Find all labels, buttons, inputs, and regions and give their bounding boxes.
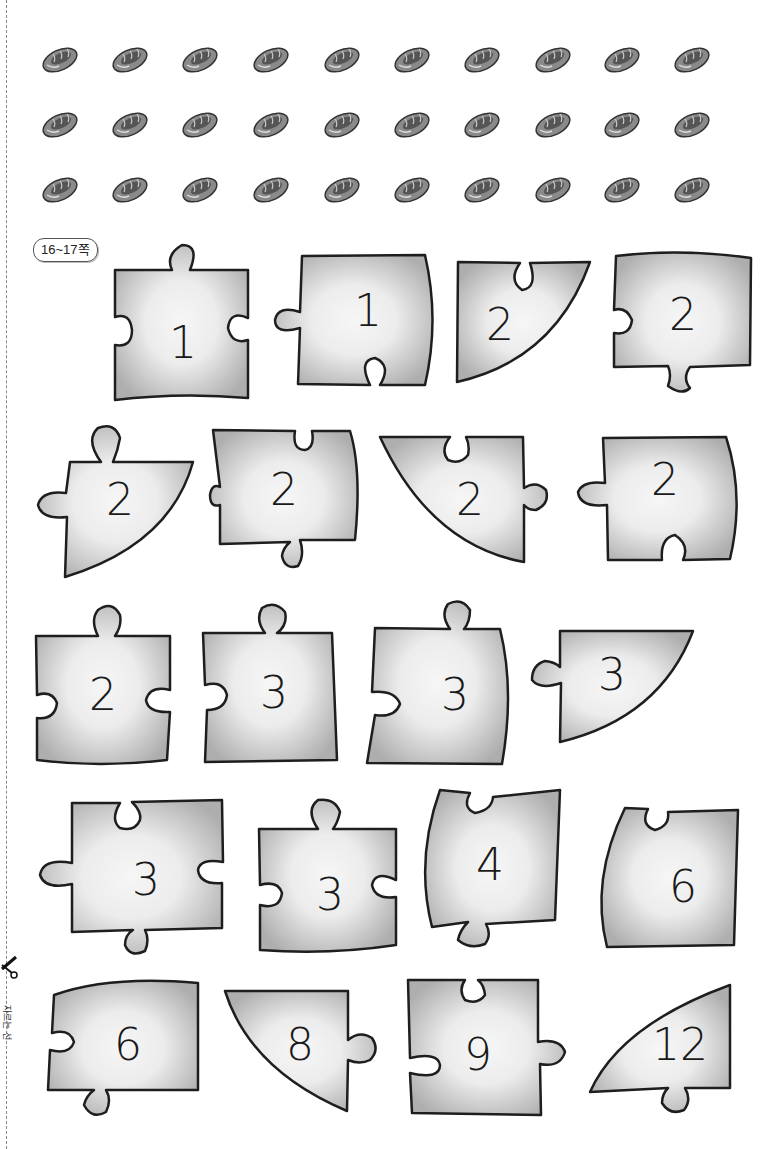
puzzle-piece[interactable]: 3 (203, 605, 337, 762)
puzzle-piece-number: 3 (441, 669, 469, 720)
puzzle-piece[interactable]: 8 (225, 991, 376, 1111)
puzzle-piece-number: 3 (598, 649, 626, 700)
puzzle-piece-number: 6 (669, 861, 697, 912)
puzzle-piece[interactable]: 2 (457, 262, 590, 382)
puzzle-piece[interactable]: 12 (590, 985, 730, 1112)
puzzle-piece[interactable]: 6 (601, 808, 738, 947)
puzzle-area: 112222222333334668912 (0, 0, 779, 1149)
puzzle-piece-number: 8 (286, 1019, 314, 1070)
puzzle-piece-number: 2 (106, 474, 134, 525)
puzzle-piece[interactable]: 9 (408, 980, 565, 1115)
puzzle-piece-number: 12 (652, 1019, 708, 1070)
puzzle-piece-shape (457, 262, 590, 382)
puzzle-piece-number: 3 (316, 869, 344, 920)
puzzle-piece[interactable]: 2 (210, 430, 358, 567)
puzzle-piece-number: 2 (89, 669, 117, 720)
puzzle-piece[interactable]: 2 (36, 606, 170, 764)
puzzle-piece[interactable]: 1 (115, 245, 248, 400)
puzzle-piece[interactable]: 2 (614, 252, 751, 391)
puzzle-piece-number: 4 (476, 839, 504, 890)
puzzle-piece[interactable]: 3 (259, 800, 396, 952)
puzzle-piece-number: 2 (486, 299, 514, 350)
puzzle-piece-number: 2 (669, 289, 697, 340)
puzzle-piece-number: 1 (169, 317, 197, 368)
puzzle-piece-number: 6 (114, 1019, 142, 1070)
puzzle-piece[interactable]: 2 (38, 426, 193, 577)
puzzle-piece-number: 9 (464, 1029, 492, 1080)
puzzle-piece[interactable]: 1 (275, 255, 433, 385)
puzzle-piece-shape (367, 602, 508, 764)
puzzle-piece[interactable]: 4 (425, 790, 560, 946)
puzzle-piece[interactable]: 3 (532, 631, 693, 742)
puzzle-piece-number: 3 (132, 854, 160, 905)
puzzle-piece-number: 2 (456, 474, 484, 525)
puzzle-piece-number: 2 (270, 464, 298, 515)
puzzle-piece-number: 1 (354, 285, 382, 336)
puzzle-piece[interactable]: 6 (48, 981, 198, 1115)
puzzle-piece-number: 3 (260, 667, 288, 718)
puzzle-piece-number: 2 (651, 454, 679, 505)
puzzle-piece[interactable]: 2 (578, 437, 737, 560)
puzzle-piece[interactable]: 3 (367, 602, 508, 764)
puzzle-piece[interactable]: 2 (380, 437, 547, 562)
puzzle-piece[interactable]: 3 (40, 800, 223, 953)
